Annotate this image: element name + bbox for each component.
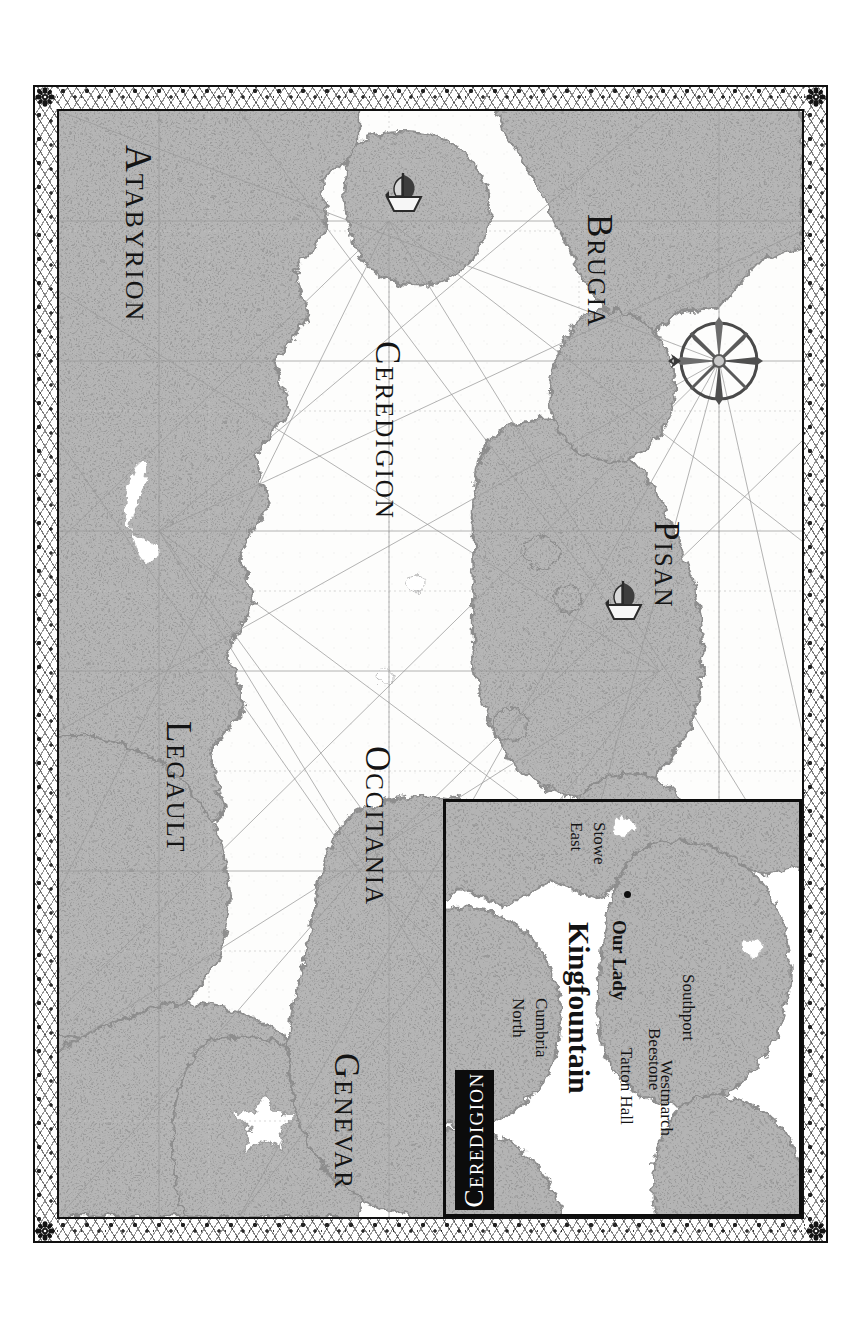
north-arrow-icon: [668, 354, 681, 368]
border-band-right: [804, 85, 828, 1243]
place-label-our-lady: Our Lady: [608, 920, 630, 1000]
place-label-beestone-text: Beestone: [645, 1028, 664, 1090]
compass-rose-icon: [665, 307, 773, 415]
border-band-top: [33, 85, 828, 109]
region-label-legault-text: Legault: [159, 721, 198, 854]
region-label-legault: Legault: [158, 721, 198, 854]
inset-title-text: Ceredigion: [459, 1073, 490, 1208]
region-label-brugia: Brugia: [579, 214, 619, 328]
place-label-stowe-text: Stowe: [590, 822, 609, 865]
border-band-left: [33, 85, 57, 1243]
region-label-atabyrion: Atabyrion: [117, 145, 160, 322]
place-label-cumbria: Cumbria: [531, 998, 551, 1058]
region-label-genevar: Genevar: [326, 1053, 366, 1190]
region-label-ceredigion-text: Ceredigion: [368, 341, 407, 520]
place-label-stowe: Stowe: [589, 822, 609, 865]
border-rule-outer-top: [33, 85, 828, 87]
place-label-north: North: [508, 998, 528, 1038]
region-label-occitania: Occitania: [357, 746, 397, 906]
map-plate: Atabyrion Ceredigion Brugia Pisan Occita…: [59, 111, 802, 1217]
place-label-southport: Southport: [678, 974, 698, 1041]
place-label-east-text: East: [567, 822, 586, 851]
place-label-tatton-hall-text: Tatton Hall: [617, 1048, 636, 1125]
corner-rosette-icon: [33, 85, 57, 109]
place-label-cumbria-text: Cumbria: [532, 998, 551, 1058]
place-label-kingfountain-text: Kingfountain: [563, 922, 596, 1094]
place-label-southport-text: Southport: [679, 974, 698, 1041]
corner-rosette-icon: [804, 85, 828, 109]
region-label-atabyrion-text: Atabyrion: [118, 145, 159, 322]
region-label-ceredigion: Ceredigion: [367, 341, 407, 520]
border-rule-outer-bottom: [33, 1241, 828, 1243]
border-band-bottom: [33, 1219, 828, 1243]
map-page: Atabyrion Ceredigion Brugia Pisan Occita…: [0, 0, 863, 1329]
place-label-north-text: North: [509, 998, 528, 1038]
place-label-kingfountain: Kingfountain: [562, 922, 596, 1094]
decorative-map-border: Atabyrion Ceredigion Brugia Pisan Occita…: [33, 85, 828, 1243]
place-label-east: East: [566, 822, 586, 851]
inset-landmasses: [446, 802, 799, 1214]
border-rule-inner-right: [802, 109, 804, 1219]
sailing-ship-icon: [599, 577, 649, 623]
region-label-pisan: Pisan: [646, 521, 686, 608]
place-label-our-lady-text: Our Lady: [609, 920, 630, 1000]
city-marker-our-lady[interactable]: [624, 891, 631, 898]
region-label-brugia-text: Brugia: [580, 214, 619, 328]
place-label-beestone: Beestone: [644, 1028, 664, 1090]
corner-rosette-icon: [33, 1219, 57, 1243]
region-label-occitania-text: Occitania: [358, 746, 397, 906]
border-rule-inner-bottom: [57, 1217, 804, 1219]
border-rule-outer-right: [826, 85, 828, 1243]
inset-title-ceredigion: Ceredigion: [455, 1070, 494, 1210]
border-rule-outer-left: [33, 85, 35, 1243]
region-label-pisan-text: Pisan: [647, 521, 686, 608]
place-label-tatton-hall: Tatton Hall: [616, 1048, 636, 1125]
inset-map-ceredigion[interactable]: Ceredigion East Stowe North Cumbria: [443, 799, 802, 1217]
region-label-genevar-text: Genevar: [327, 1053, 366, 1190]
sailing-ship-icon: [379, 169, 429, 215]
corner-rosette-icon: [804, 1219, 828, 1243]
